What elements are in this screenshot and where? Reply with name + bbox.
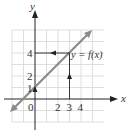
y-tick-2: 2 — [27, 70, 33, 82]
y-tick-1: 1 — [27, 82, 33, 94]
function-graph: y x y = f(x) 0 2 3 4 1 2 4 — [0, 0, 132, 137]
x-axis-arrow-icon — [110, 96, 118, 102]
x-tick-4: 4 — [78, 101, 84, 113]
x-axis-label: x — [120, 92, 126, 104]
y-axis-label: y — [29, 0, 35, 12]
y-tick-4: 4 — [27, 47, 33, 59]
x-tick-3: 3 — [67, 101, 73, 113]
x-tick-2: 2 — [55, 101, 61, 113]
function-label: y = f(x) — [70, 49, 103, 61]
left-arrow-icon — [50, 51, 56, 56]
x-tick-0: 0 — [28, 101, 34, 113]
